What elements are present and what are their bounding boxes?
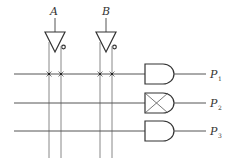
and-gate-1-icon	[145, 64, 174, 84]
pla-diagram: A B	[0, 0, 234, 168]
input-label-b: B	[101, 5, 110, 18]
and-gate-2-crossed-icon	[145, 93, 174, 113]
svg-text:P: P	[209, 68, 218, 81]
svg-text:P: P	[209, 97, 218, 110]
output-label-p1: P 1	[209, 68, 222, 82]
input-label-a: A	[49, 5, 58, 18]
buffer-inverter-b-icon	[96, 32, 116, 52]
output-label-p2: P 2	[209, 97, 222, 111]
svg-text:3: 3	[218, 132, 222, 139]
buffer-inverter-a-icon	[45, 32, 65, 52]
output-label-p3: P 3	[209, 125, 222, 139]
svg-text:P: P	[209, 125, 218, 138]
and-gate-3-icon	[145, 121, 174, 141]
svg-text:1: 1	[218, 75, 222, 82]
svg-text:2: 2	[218, 104, 222, 111]
